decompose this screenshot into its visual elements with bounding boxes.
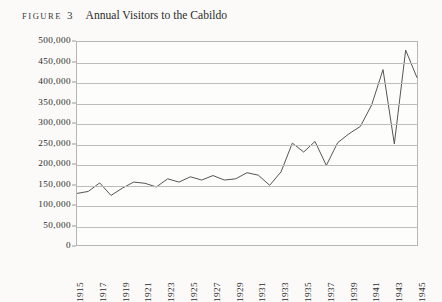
x-axis-tick-label: 1931: [258, 282, 267, 302]
x-axis-tick-label: 1935: [304, 282, 313, 302]
gridline: [77, 186, 417, 187]
x-axis-tick-label: 1943: [395, 282, 404, 302]
figure-caption: Figure 3 Annual Visitors to the Cabildo: [22, 9, 227, 25]
visitors-line-series: [77, 50, 417, 195]
gridline: [77, 104, 417, 105]
x-axis-tick-label: 1917: [99, 282, 108, 302]
gridline: [77, 124, 417, 125]
data-line-chart: [77, 42, 417, 245]
x-axis-tick-label: 1923: [167, 282, 176, 302]
x-axis-tick-label: 1927: [213, 282, 222, 302]
figure-number: 3: [67, 9, 73, 21]
x-axis: 1915191719191921192319251927192919311933…: [76, 248, 418, 284]
gridline: [77, 145, 417, 146]
x-axis-tick-label: 1925: [190, 282, 199, 302]
x-axis-tick-label: 1933: [281, 282, 290, 302]
gridline: [77, 83, 417, 84]
x-axis-tick-label: 1941: [372, 282, 381, 302]
x-axis-tick-label: 1921: [144, 282, 153, 302]
x-axis-tick-label: 1929: [236, 282, 245, 302]
gridline: [77, 165, 417, 166]
gridline: [77, 206, 417, 207]
x-axis-tick-label: 1945: [418, 282, 427, 302]
figure-label: Figure: [22, 11, 62, 21]
gridline: [77, 227, 417, 228]
figure-title: Annual Visitors to the Cabildo: [86, 9, 227, 22]
plot-area: [76, 41, 418, 246]
gridline: [77, 63, 417, 64]
x-axis-tick-label: 1939: [350, 282, 359, 302]
x-axis-tick-label: 1919: [122, 282, 131, 302]
x-axis-tick-label: 1937: [327, 282, 336, 302]
x-axis-tick-label: 1915: [76, 282, 85, 302]
y-axis-tick-marks: [0, 41, 76, 246]
